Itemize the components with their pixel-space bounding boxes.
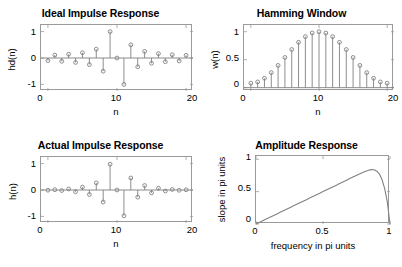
y-tick-label: 0 (209, 78, 239, 89)
plot-area (40, 24, 192, 90)
subplot-amplitude-response: Amplitude Response slope in pi units 1 0… (201, 134, 402, 267)
stem-plot-canvas (41, 25, 193, 91)
x-tick-label: 0 (245, 225, 265, 236)
x-tick-label: 0.5 (312, 225, 332, 236)
plot-area (40, 156, 192, 222)
y-tick-label: 0.5 (209, 52, 239, 63)
plot-area (243, 24, 393, 90)
y-tick-label: 1 (225, 151, 251, 162)
y-tick-label: 1 (14, 158, 36, 169)
x-tick-label: 1 (379, 225, 399, 236)
x-axis-label: frequency in pi units (225, 240, 401, 251)
x-axis-label: n (243, 106, 393, 117)
x-tick-label: 20 (182, 92, 202, 103)
x-tick-label: 0 (233, 92, 253, 103)
y-tick-label: 1 (209, 26, 239, 37)
plot-title: Hamming Window (201, 7, 402, 19)
subplot-ideal-impulse-response: Ideal Impulse Response hd(n) 1 0 -1 0 10… (0, 0, 201, 134)
x-tick-label: 20 (383, 92, 402, 103)
x-tick-label: 0 (30, 92, 50, 103)
plot-title: Ideal Impulse Response (0, 7, 201, 19)
plot-title: Actual Impulse Response (0, 139, 201, 151)
plot-area (255, 155, 389, 223)
x-tick-label: 0 (30, 224, 50, 235)
x-axis-label: n (40, 238, 192, 249)
y-tick-label: -1 (14, 210, 36, 221)
y-tick-label: -1 (14, 78, 36, 89)
plot-title: Amplitude Response (211, 139, 402, 151)
y-tick-label: 0.5 (225, 182, 251, 193)
x-tick-label: 10 (308, 92, 328, 103)
matlab-figure-window: Ideal Impulse Response hd(n) 1 0 -1 0 10… (0, 0, 402, 267)
y-tick-label: 0 (14, 184, 36, 195)
subplot-hamming-window: Hamming Window w(n) 1 0.5 0 0 10 20 n (201, 0, 402, 134)
x-tick-label: 10 (106, 224, 126, 235)
x-tick-label: 10 (106, 92, 126, 103)
y-tick-label: 0 (225, 213, 251, 224)
line-plot-canvas (256, 156, 390, 224)
stem-plot-canvas (244, 25, 394, 91)
stem-plot-canvas (41, 157, 193, 223)
subplot-actual-impulse-response: Actual Impulse Response h(n) 1 0 -1 0 10… (0, 134, 201, 267)
y-tick-label: 1 (14, 26, 36, 37)
x-axis-label: n (40, 106, 192, 117)
y-tick-label: 0 (14, 52, 36, 63)
x-tick-label: 20 (182, 224, 202, 235)
